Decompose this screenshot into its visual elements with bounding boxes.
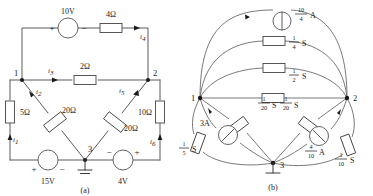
current-source-3a-arrow: [208, 108, 212, 114]
frac-num-1-twentieth-left: 1: [262, 95, 265, 102]
resistor-5ohm-symbol: [6, 101, 15, 123]
wire-diag-b-right-upper: [318, 98, 347, 119]
resistor-20ohm-left-label: 20Ω: [62, 106, 76, 115]
conductance-1-over-10-group: [340, 134, 355, 156]
frac-unit-s-20-left: S: [272, 101, 276, 110]
current-i5-arrow: [133, 90, 139, 96]
node-2-dot: [146, 78, 150, 82]
current-source-10-over-4-label: 10 4 A: [295, 6, 316, 22]
resistor-10ohm-label: 10Ω: [138, 108, 152, 117]
conductance-1-over-2-arc-symbol: [263, 64, 285, 73]
node-b3-label: 3: [280, 160, 284, 170]
node-b2-label: 2: [353, 93, 357, 103]
current-i6-arrow: [158, 134, 163, 140]
ground-symbol: [78, 160, 92, 174]
frac-num-10: 10: [298, 6, 304, 13]
current-i2-label: i2: [36, 88, 42, 98]
source-15v-plus: +: [31, 164, 36, 174]
node-3-label: 3: [88, 144, 92, 154]
frac-unit-s-tenth: S: [350, 156, 354, 165]
source-10v-minus: −: [81, 23, 86, 33]
frac-unit-s-20-right: S: [294, 101, 298, 110]
frac-num-1-fifth: 1: [182, 140, 185, 147]
current-i3-arrow: [52, 78, 58, 83]
current-i1-label: i1: [13, 136, 18, 146]
frac-den-5-fifth: 5: [182, 149, 185, 156]
current-source-3a-label: 3A: [200, 119, 210, 128]
wire-top-right: [78, 28, 148, 80]
frac-num-1-quarter: 1: [292, 34, 295, 41]
wire-diag-b-left-lower: [247, 133, 273, 163]
node-b2-dot: [345, 96, 349, 100]
resistor-2ohm-label: 2Ω: [80, 62, 90, 71]
frac-num-4-tenth: 4: [309, 143, 312, 150]
conductance-1-over-4-symbol: [263, 37, 285, 46]
resistor-4ohm-symbol: [100, 24, 122, 33]
current-source-4-over-10-arrow: [337, 109, 341, 115]
current-i5-label: i5: [119, 87, 125, 97]
ground-symbol-b: [266, 163, 280, 173]
frac-den-2-half: 2: [292, 76, 295, 83]
current-i6-label: i6: [150, 138, 156, 148]
node-2-label: 2: [153, 68, 157, 78]
panel-a: + − 10V 4Ω i4 2Ω i3 5Ω i1 10Ω: [6, 7, 165, 195]
arc-tenth-upper: [347, 98, 354, 137]
source-10v-label: 10V: [61, 7, 75, 16]
resistor-2ohm-symbol: [74, 76, 96, 85]
node-b1-label: 1: [191, 93, 195, 103]
frac-unit-a-bottom: A: [319, 148, 325, 157]
source-15v-minus: −: [59, 164, 64, 174]
circuit-figure: + − 10V 4Ω i4 2Ω i3 5Ω i1 10Ω: [0, 0, 373, 196]
frac-num-1-twentieth-right: 1: [284, 95, 287, 102]
frac-unit-s-quarter: S: [302, 39, 306, 48]
current-source-10-over-4-group: [273, 12, 291, 30]
frac-den-20-twentieth-left: 20: [261, 104, 267, 111]
current-i4-label: i4: [140, 33, 146, 43]
resistor-4ohm-label: 4Ω: [106, 10, 116, 19]
arc-top-right-source: [291, 10, 347, 98]
resistor-20ohm-right-symbol: [104, 112, 127, 133]
arc-half-left: [200, 68, 263, 98]
resistor-20ohm-right-group: [104, 112, 127, 133]
source-15v-label: 15V: [41, 177, 55, 186]
arc-quarter-left: [200, 41, 263, 98]
resistor-10ohm-symbol: [156, 101, 165, 123]
source-4v-symbol: [113, 150, 133, 170]
resistor-5ohm-label: 5Ω: [20, 108, 30, 117]
arc-fifth-lower: [203, 152, 273, 165]
node-1-label: 1: [14, 68, 18, 78]
curve-4-10a-lower: [273, 144, 307, 163]
resistor-20ohm-right-label: 20Ω: [124, 124, 138, 133]
current-i3-label: i3: [48, 67, 54, 77]
frac-den-4: 4: [299, 15, 302, 22]
frac-unit-s-fifth: S: [192, 145, 196, 154]
current-source-10-over-4-arrow: [245, 15, 250, 20]
curve-3a-lower: [240, 143, 273, 163]
frac-num-1-half: 1: [292, 67, 295, 74]
wire-diag-left-lower: [62, 131, 85, 160]
frac-den-4-quarter: 4: [292, 43, 295, 50]
frac-num-1-tenth-s: 1: [339, 151, 342, 158]
source-4v-label: 4V: [118, 177, 128, 186]
wire-diag-b-right-lower: [273, 133, 300, 163]
panel-b-caption: (b): [268, 183, 278, 192]
source-10v-plus: +: [49, 23, 54, 33]
panel-b: 10 4 A 1 4 S 1 2 S: [179, 6, 357, 192]
current-i1-arrow: [8, 134, 13, 140]
arc-fifth-upper: [192, 98, 200, 134]
current-i4-arrow: [134, 26, 140, 31]
wire-diag-b-left-upper: [200, 98, 229, 119]
frac-den-10-tenth: 10: [308, 152, 314, 159]
figure-root: + − 10V 4Ω i4 2Ω i3 5Ω i1 10Ω: [0, 0, 373, 196]
conductance-1-over-10-symbol: [340, 134, 355, 156]
current-source-3a-group: [219, 126, 238, 145]
panel-a-caption: (a): [81, 186, 90, 195]
frac-den-10-tenth-s: 10: [338, 160, 344, 167]
node-1-dot: [20, 78, 24, 82]
frac-den-20-twentieth-right: 20: [283, 104, 289, 111]
source-15v-symbol: [38, 150, 58, 170]
conductance-1-over-4-label: 1 4 S: [289, 34, 306, 50]
source-4v-minus: −: [106, 147, 111, 157]
source-10v-symbol: [58, 18, 78, 38]
frac-unit-s-half: S: [302, 72, 306, 81]
